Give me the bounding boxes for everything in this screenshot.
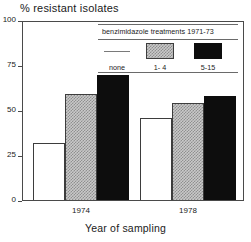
legend-label-low: 1- 4 xyxy=(154,63,166,72)
bar-1974-low xyxy=(65,94,97,200)
y-tick-label-50: 50 xyxy=(7,105,16,115)
x-axis-title: Year of sampling xyxy=(0,222,251,234)
open-line-swatch xyxy=(104,51,130,52)
bar-1974-high xyxy=(97,75,129,200)
y-tick-mark xyxy=(18,201,22,202)
y-tick-100: 100 xyxy=(0,21,22,22)
y-tick-0: 0 xyxy=(0,201,22,202)
legend-label-none: none xyxy=(109,63,125,72)
hatched-swatch xyxy=(146,43,174,59)
y-tick-label-100: 100 xyxy=(3,15,16,25)
legend-title: benzimidazole treatments 1971-73 xyxy=(102,27,214,36)
y-tick-label-0: 0 xyxy=(12,195,16,205)
x-tick-label-1978: 1978 xyxy=(179,206,197,216)
y-tick-75: 75 xyxy=(0,66,22,67)
bar-1974-none xyxy=(33,143,65,200)
y-tick-25: 25 xyxy=(0,156,22,157)
legend-baseline-rule xyxy=(98,72,238,73)
legend: benzimidazole treatments 1971-73 none 1-… xyxy=(98,25,238,75)
y-tick-50: 50 xyxy=(0,111,22,112)
legend-bottom-rule xyxy=(98,39,238,40)
x-tick-label-1974: 1974 xyxy=(72,206,90,216)
bar-1978-high xyxy=(204,96,236,200)
solid-black-swatch xyxy=(194,43,222,59)
legend-top-rule xyxy=(98,24,238,25)
legend-label-high: 5-15 xyxy=(201,63,215,72)
y-tick-label-25: 25 xyxy=(7,150,16,160)
y-tick-label-75: 75 xyxy=(7,60,16,70)
bar-1978-none xyxy=(140,118,172,200)
chart-title: % resistant isolates xyxy=(20,2,119,14)
bar-1978-low xyxy=(172,103,204,200)
bar-chart: % resistant isolates 100 75 50 25 0 benz… xyxy=(0,0,251,242)
